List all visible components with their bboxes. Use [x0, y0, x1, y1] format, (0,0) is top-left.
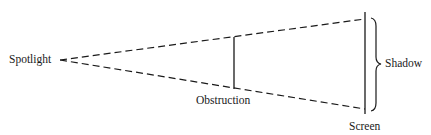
top-light-ray: [60, 19, 365, 60]
diagram-canvas: [0, 0, 431, 135]
spotlight-label: Spotlight: [9, 54, 51, 66]
obstruction-label: Obstruction: [196, 95, 250, 107]
shadow-label: Shadow: [385, 58, 422, 70]
screen-label: Screen: [349, 121, 380, 133]
shadow-brace: [371, 18, 381, 111]
